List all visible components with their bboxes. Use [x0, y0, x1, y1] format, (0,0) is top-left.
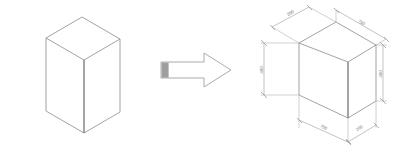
ext-line-top-right: [376, 39, 386, 45]
left-isometric-box: [46, 17, 120, 133]
transform-arrow-tail-cap: [162, 63, 169, 78]
dim-tick-length-top-right-start: [334, 8, 339, 13]
ext-line-top-left-b: [309, 7, 336, 22]
dim-label-height-right: 400: [378, 70, 383, 78]
ext-line-top-left-a: [272, 27, 299, 43]
dim-label-height-left: 400: [259, 66, 264, 74]
dim-tick-length-bottom-start: [297, 118, 302, 123]
transform-arrow-outline: [161, 53, 231, 87]
dim-label-depth-top-left: 200: [286, 9, 295, 17]
isometric-box-diagram: 200 750 400 400 750 200: [0, 0, 393, 151]
dim-label-depth-bottom: 200: [355, 124, 364, 132]
diagram-canvas: 200 750 400 400 750 200: [0, 0, 393, 151]
dim-label-length-top-right: 750: [358, 19, 367, 27]
right-isometric-box: [299, 22, 376, 118]
transform-arrow: [161, 53, 231, 87]
